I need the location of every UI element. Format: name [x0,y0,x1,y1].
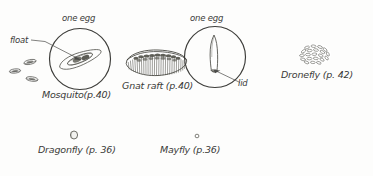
mosquito-caption: Mosquito(p.40) [42,90,111,100]
float-leader-line [31,39,83,63]
lid-label: lid [238,79,248,88]
dronefly-egg-cluster-figure [295,41,335,69]
gnat-raft-figure [124,49,190,81]
egg-identification-plate: one egg float Mosquito(p.40) [0,0,373,176]
mayfly-egg-figure [192,131,202,141]
dragonfly-caption: Dragonfly (p. 36) [38,145,116,155]
mayfly-caption: Mayfly (p.36) [160,145,220,155]
dragonfly-egg-figure [68,129,80,141]
mosquito-one-egg-label: one egg [62,14,95,23]
dronefly-caption: Dronefly (p. 42) [281,70,353,80]
float-label: float [10,36,28,45]
lidded-egg-one-egg-label: one egg [190,14,223,23]
